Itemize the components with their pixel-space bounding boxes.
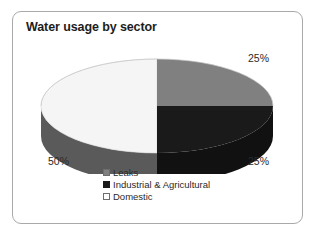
legend-swatch-industrial: [103, 181, 110, 188]
chart-legend: Leaks Industrial & Agricultural Domestic: [103, 167, 283, 203]
pie-value-label-industrial: 25%: [248, 155, 269, 167]
legend-label-domestic: Domestic: [113, 191, 153, 202]
legend-label-leaks: Leaks: [113, 167, 138, 178]
pie-value-label-domestic: 50%: [48, 155, 69, 167]
legend-swatch-domestic: [103, 193, 110, 200]
chart-title: Water usage by sector: [26, 20, 157, 34]
legend-item-industrial: Industrial & Agricultural: [103, 179, 283, 191]
chart-card: Water usage by sector 25% 25% 50% Leak: [12, 11, 303, 224]
legend-item-leaks: Leaks: [103, 167, 283, 179]
pie-value-label-leaks: 25%: [248, 52, 269, 64]
pie-chart-plot-area: 25% 25% 50%: [13, 34, 302, 174]
legend-swatch-leaks: [103, 169, 110, 176]
legend-item-domestic: Domestic: [103, 191, 283, 203]
legend-label-industrial: Industrial & Agricultural: [113, 179, 210, 190]
pie-slice-top-leaks: [157, 59, 273, 106]
